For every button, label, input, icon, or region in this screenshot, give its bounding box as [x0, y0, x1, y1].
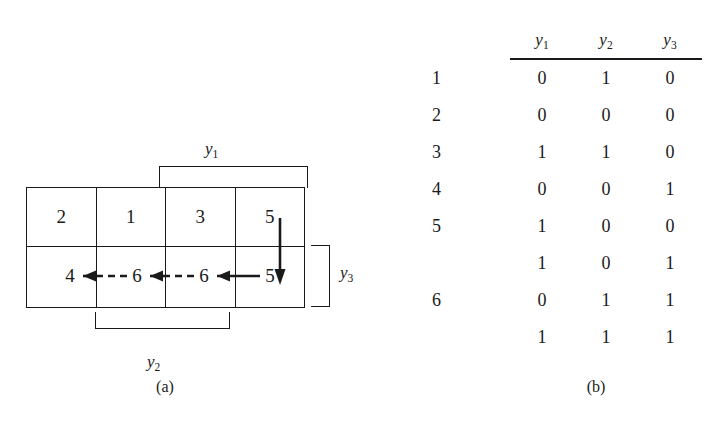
grid-table: 2 1 3 5: [26, 187, 305, 308]
grid-cell-top-1: 2: [27, 188, 97, 247]
grid-row-bottom: [27, 247, 305, 308]
grid-cell-bot-3: [166, 247, 236, 308]
table-cell-y3: 1: [638, 319, 702, 356]
table-header-y2-sub: 2: [607, 39, 613, 52]
table-cell-y2: 1: [574, 60, 638, 97]
table-cell-y2: 0: [574, 171, 638, 208]
table-header-y2-base: y: [599, 30, 607, 49]
table-header-y1: y1: [510, 18, 574, 56]
table-cell-y1: 1: [510, 319, 574, 356]
table-header-y1-base: y: [535, 30, 543, 49]
table-header-row: y1 y2 y3: [420, 18, 702, 56]
table-row-label: 4: [420, 171, 510, 208]
table-row-label: [420, 319, 510, 356]
bracket-y3: [311, 245, 330, 307]
block-grid: 2 1 3 5: [26, 187, 305, 305]
table-cell-y1: 1: [510, 245, 574, 282]
bracket-y1: [159, 166, 308, 188]
bracket-y2: [95, 312, 230, 329]
table-cell-y1: 1: [510, 208, 574, 245]
table-header-y1-sub: 1: [543, 39, 549, 52]
table-cell-y3: 1: [638, 245, 702, 282]
table-row-label: 1: [420, 60, 510, 97]
table-body: 1 0 1 0 2 0 0 0 3 1 1 0 4: [420, 60, 702, 356]
label-y3: y3: [340, 263, 353, 285]
figure-root: y1 2 1 3 5: [0, 0, 712, 430]
table-cell-y3: 0: [638, 97, 702, 134]
grid-cell-bot-4: [235, 247, 305, 308]
label-y2: y2: [147, 352, 160, 374]
table-row: 4 0 0 1: [420, 171, 702, 208]
table-cell-y2: 1: [574, 319, 638, 356]
grid-cell-top-3-label: 3: [196, 206, 206, 227]
grid-cell-top-2: 1: [96, 188, 166, 247]
table-header-y3-sub: 3: [671, 39, 677, 52]
table-row-label: 2: [420, 97, 510, 134]
table-header-y3-base: y: [663, 30, 671, 49]
grid-cell-bot-2: [96, 247, 166, 308]
table-row: 1 1 1: [420, 319, 702, 356]
caption-a: (a): [0, 378, 330, 396]
table-row: 5 1 0 0: [420, 208, 702, 245]
table-cell-y3: 1: [638, 171, 702, 208]
grid-cell-bot-1: [27, 247, 97, 308]
table-cell-y1: 0: [510, 60, 574, 97]
grid-cell-top-4-label: 5: [265, 206, 275, 227]
label-y1-base: y: [205, 139, 213, 158]
table-cell-y3: 0: [638, 208, 702, 245]
table-cell-y2: 1: [574, 134, 638, 171]
table-row-label: 5: [420, 208, 510, 245]
grid-cell-top-3: 3: [166, 188, 236, 247]
table-row-label: 3: [420, 134, 510, 171]
table-cell-y1: 0: [510, 97, 574, 134]
label-y3-base: y: [340, 263, 348, 282]
table-cell-y1: 1: [510, 134, 574, 171]
grid-cell-top-1-label: 2: [57, 206, 67, 227]
table-cell-y2: 0: [574, 97, 638, 134]
table-cell-y3: 0: [638, 60, 702, 97]
table-row: 1 0 1: [420, 245, 702, 282]
table-cell-y1: 0: [510, 171, 574, 208]
label-y2-sub: 2: [155, 361, 161, 374]
table-row: 6 0 1 1: [420, 282, 702, 319]
truth-table: y1 y2 y3 1: [420, 18, 702, 356]
table-cell-y1: 0: [510, 282, 574, 319]
table-cell-y3: 0: [638, 134, 702, 171]
table-row-label: [420, 245, 510, 282]
table-row-label: 6: [420, 282, 510, 319]
panel-b-table: y1 y2 y3 1: [420, 0, 712, 430]
table-cell-y2: 1: [574, 282, 638, 319]
table-cell-y2: 0: [574, 208, 638, 245]
table-header-y3: y3: [638, 18, 702, 56]
table-row: 2 0 0 0: [420, 97, 702, 134]
table-row: 1 0 1 0: [420, 60, 702, 97]
grid-cell-top-2-label: 1: [126, 206, 136, 227]
panel-a-diagram: y1 2 1 3 5: [0, 0, 420, 430]
grid-row-top: 2 1 3 5: [27, 188, 305, 247]
grid-cell-top-4: 5: [235, 188, 305, 247]
table-cell-y2: 0: [574, 245, 638, 282]
label-y1-sub: 1: [213, 148, 219, 161]
label-y2-base: y: [147, 352, 155, 371]
caption-b: (b): [498, 378, 694, 396]
table-header-y2: y2: [574, 18, 638, 56]
label-y1: y1: [205, 139, 218, 161]
table-cell-y3: 1: [638, 282, 702, 319]
label-y3-sub: 3: [348, 272, 354, 285]
table-row: 3 1 1 0: [420, 134, 702, 171]
table-header-blank: [420, 18, 510, 56]
